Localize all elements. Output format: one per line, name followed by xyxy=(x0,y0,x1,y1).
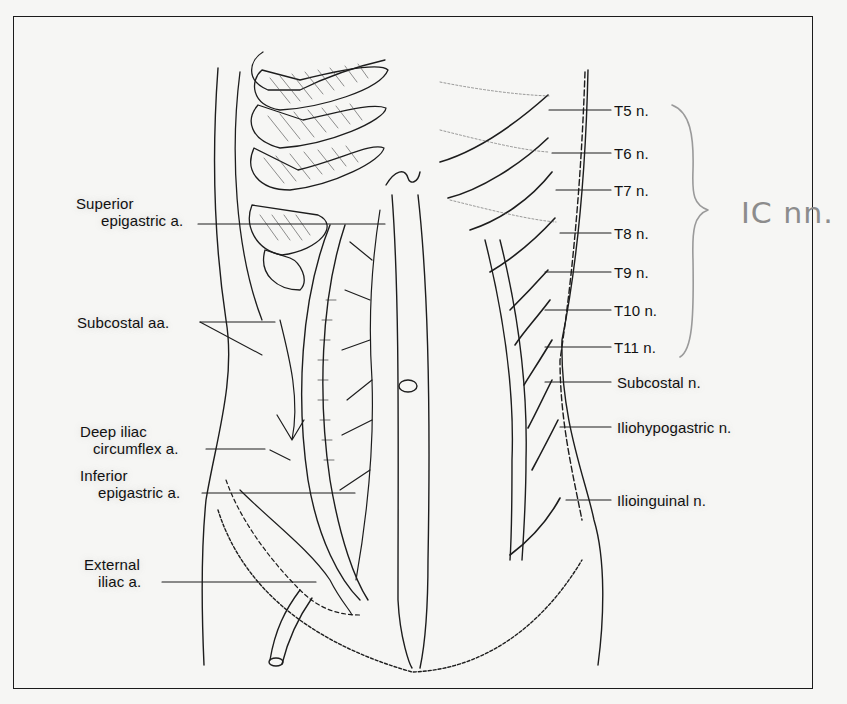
label-t10-nerve: T10 n. xyxy=(614,302,657,319)
left-rib-cage xyxy=(235,52,388,320)
rectus-right xyxy=(485,240,512,560)
arteries-left xyxy=(226,210,380,615)
label-subcostal-arteries: Subcostal aa. xyxy=(77,314,169,331)
label-t7-nerve: T7 n. xyxy=(614,182,649,199)
label-t6-nerve: T6 n. xyxy=(614,145,649,162)
bracket-annotation xyxy=(672,105,708,357)
label-deep-iliac-circumflex-artery: Deep iliac circumflex a. xyxy=(80,423,179,457)
label-iliohypogastric-nerve: Iliohypogastric n. xyxy=(617,419,731,436)
label-subcostal-nerve: Subcostal n. xyxy=(617,374,701,391)
label-t9-nerve: T9 n. xyxy=(614,264,649,281)
torso-outline-left xyxy=(202,68,229,665)
leader-lines-left xyxy=(162,224,385,582)
label-inferior-epigastric-artery: Inferior epigastric a. xyxy=(80,467,180,501)
linea-alba-right xyxy=(418,195,429,668)
label-t8-nerve: T8 n. xyxy=(614,225,649,242)
torso-outline-right xyxy=(562,70,603,665)
xiphoid xyxy=(386,172,420,185)
linea-alba-left xyxy=(392,195,412,668)
label-ilioinguinal-nerve: Ilioinguinal n. xyxy=(617,492,706,509)
handwritten-annotation: IC nn. xyxy=(741,197,834,230)
label-external-iliac-artery: External iliac a. xyxy=(84,556,141,590)
abdominal-wall-illustration xyxy=(0,0,847,704)
label-t11-nerve: T11 n. xyxy=(614,339,656,356)
leader-lines-right xyxy=(545,110,611,500)
umbilicus-icon xyxy=(399,380,417,392)
label-superior-epigastric-artery: Superior epigastric a. xyxy=(76,195,183,229)
intercostal-nerves xyxy=(440,95,560,555)
label-t5-nerve: T5 n. xyxy=(614,102,649,119)
lateral-line-right xyxy=(560,72,585,520)
